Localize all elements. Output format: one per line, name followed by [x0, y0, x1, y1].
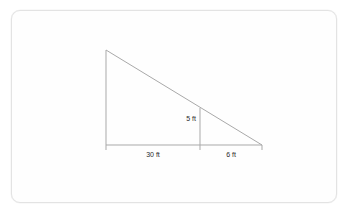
label-base-left: 30 ft: [146, 151, 160, 158]
diagram-canvas: 5 ft 30 ft 6 ft: [0, 0, 350, 218]
label-inner-height: 5 ft: [186, 115, 196, 122]
triangle-diagram: 5 ft 30 ft 6 ft: [0, 0, 350, 218]
label-base-right: 6 ft: [226, 151, 236, 158]
triangle-hypotenuse: [106, 50, 262, 145]
